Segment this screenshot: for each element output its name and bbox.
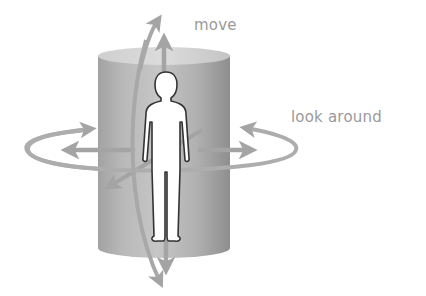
- move-label: move: [194, 16, 237, 34]
- diagram-canvas: move look around: [0, 0, 426, 296]
- look-around-label: look around: [291, 108, 382, 126]
- diagram-graphic: [0, 0, 426, 296]
